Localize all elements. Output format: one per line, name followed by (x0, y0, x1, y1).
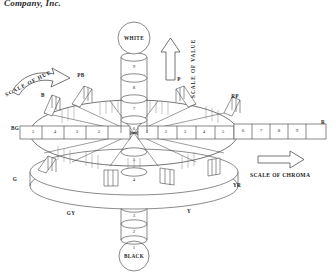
diagram-canvas (0, 0, 336, 274)
hue-label-R: R (316, 119, 330, 125)
chroma-left-step-2: 2 (92, 129, 106, 134)
value-6-ellipse (121, 116, 147, 124)
value-step-8: 8 (126, 85, 142, 90)
chroma-right-step-6: 6 (236, 128, 250, 133)
chroma-right-step-2: 2 (159, 129, 173, 134)
value-step-3: 3 (126, 213, 142, 218)
hue-label-YR: YR (228, 182, 246, 188)
chroma-left-step-3: 3 (70, 129, 84, 134)
chroma-left-step-5: 5 (26, 129, 40, 134)
value-step-4: 4 (126, 177, 142, 182)
white-pole-label: WHITE (118, 35, 150, 41)
hue-label-P: P (172, 76, 186, 82)
value-step-9: 9 (126, 64, 142, 69)
hue-leaf-RP (224, 97, 240, 116)
value-2-ellipse (121, 220, 147, 228)
value-arrow (161, 38, 180, 80)
scale-of-value-label: SCALE OF VALUE (190, 39, 196, 98)
hue-leaf-GY (104, 170, 118, 186)
hue-leaf-B (44, 95, 60, 116)
hue-label-B: B (36, 92, 50, 98)
chroma-right-step-7: 7 (254, 128, 268, 133)
hue-label-GY: GY (62, 210, 80, 216)
hue-label-PB: PB (72, 72, 90, 78)
value-step-1: 1 (126, 245, 142, 250)
value-7-ellipse (121, 95, 147, 103)
black-pole-label: BLACK (118, 253, 150, 259)
hue-leaf-PB (72, 86, 92, 107)
hue-label-BG: BG (6, 125, 24, 131)
value-step-2: 2 (126, 229, 142, 234)
hue-leaf-Y (160, 168, 174, 185)
value-axis-upper (118, 22, 150, 176)
hue-label-G: G (8, 176, 22, 182)
hue-leaf-YR (208, 158, 220, 176)
scale-of-chroma-label: SCALE OF CHROMA (250, 172, 336, 178)
value-step-7: 7 (126, 106, 142, 111)
chroma-right-step-9: 9 (290, 128, 304, 133)
value-step-5: 5 (126, 157, 142, 162)
chroma-right-step-5: 5 (216, 129, 230, 134)
chroma-arrow (258, 151, 304, 168)
hue-label-Y: Y (182, 208, 196, 214)
hue-label-RP: RP (226, 93, 244, 99)
munsell-color-solid-figure: Company, Inc. (0, 0, 336, 274)
value-8-ellipse (121, 74, 147, 82)
chroma-right-step-1: 1 (140, 129, 154, 134)
chroma-left-step-4: 4 (48, 129, 62, 134)
value-4-ellipse (121, 168, 147, 176)
chroma-right-step-4: 4 (197, 129, 211, 134)
chroma-right-step-8: 8 (272, 128, 286, 133)
value-5-ellipse (121, 148, 147, 156)
chroma-right-step-3: 3 (178, 129, 192, 134)
